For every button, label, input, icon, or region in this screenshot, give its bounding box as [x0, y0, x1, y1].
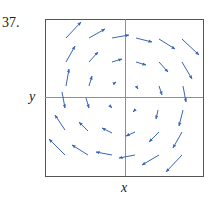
- vector-arrow: [55, 115, 65, 130]
- vector-arrow: [179, 110, 183, 126]
- vector-arrow: [119, 155, 135, 158]
- vector-arrow: [159, 86, 162, 95]
- vector-arrow: [183, 86, 186, 102]
- vector-arrow: [72, 145, 88, 155]
- vector-arrow: [49, 139, 65, 155]
- vector-field-plot: [0, 0, 217, 203]
- vector-arrow: [136, 86, 138, 89]
- vector-arrow: [66, 46, 75, 62]
- vector-field-figure: 37. y x: [0, 0, 217, 203]
- vector-arrow: [136, 62, 146, 65]
- vector-arrow: [112, 59, 122, 62]
- vector-arrow: [86, 98, 89, 108]
- vector-arrow: [173, 132, 182, 148]
- vector-arrow: [96, 152, 112, 155]
- vector-arrow: [89, 29, 105, 38]
- vector-arrow: [159, 62, 168, 72]
- vector-arrow: [62, 92, 65, 108]
- vector-arrow: [142, 155, 159, 165]
- vector-arrow: [66, 69, 69, 86]
- vector-arrow: [110, 106, 112, 108]
- vector-arrow: [156, 110, 158, 119]
- vector-arrow: [182, 62, 192, 79]
- vector-arrow: [182, 39, 199, 55]
- vector-arrow: [136, 38, 152, 42]
- vector-arrow: [89, 76, 92, 86]
- vector-arrow: [66, 22, 81, 38]
- vector-arrow: [133, 110, 135, 112]
- vector-arrow: [79, 122, 88, 131]
- vector-arrow: [126, 132, 135, 136]
- vector-arrow: [89, 52, 98, 62]
- vector-arrow: [159, 39, 175, 49]
- vector-arrow: [166, 155, 182, 172]
- vector-arrow: [112, 35, 129, 38]
- vector-arrow: [113, 82, 116, 84]
- vector-arrow: [149, 132, 159, 142]
- vector-arrow: [102, 128, 112, 133]
